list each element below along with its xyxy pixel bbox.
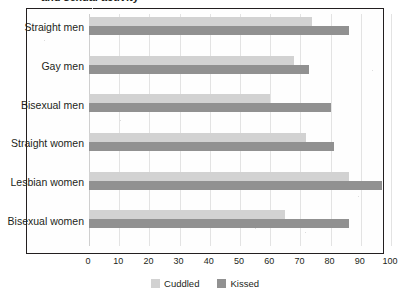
gridline-100 [391,14,392,246]
x-tick-20: 20 [143,256,153,266]
page-title: and sexual activity [41,0,139,3]
scan-artifact [358,196,359,197]
bar-kissed[interactable] [89,142,334,151]
bar-group [89,207,391,246]
x-tick-30: 30 [174,256,184,266]
bar-kissed[interactable] [89,26,349,35]
scan-artifact [92,8,93,9]
category-label-bisexual-women: Bisexual women [0,215,84,227]
bar-cuddled[interactable] [89,172,349,181]
x-axis-tick-labels: 0102030405060708090100 [88,256,390,270]
x-tick-100: 100 [382,256,397,266]
scan-artifact [305,232,306,233]
bar-kissed[interactable] [89,219,349,228]
x-tick-40: 40 [204,256,214,266]
legend-swatch-cuddled-icon [151,279,160,288]
bar-kissed[interactable] [89,181,382,190]
x-tick-70: 70 [294,256,304,266]
category-label-bisexual-men: Bisexual men [0,99,84,111]
scan-artifact [255,228,256,229]
bar-kissed[interactable] [89,103,331,112]
bar-group [89,14,391,53]
x-tick-80: 80 [325,256,335,266]
chart-page: and sexual activity Straight menGay menB… [0,0,410,299]
bar-rows [89,14,391,246]
legend-swatch-kissed-icon [217,279,226,288]
category-label-lesbian-women: Lesbian women [0,176,84,188]
x-tick-0: 0 [85,256,90,266]
x-tick-60: 60 [264,256,274,266]
bar-cuddled[interactable] [89,210,285,219]
x-tick-50: 50 [234,256,244,266]
scan-artifact [120,120,121,121]
bar-cuddled[interactable] [89,133,306,142]
bar-group [89,91,391,130]
bar-cuddled[interactable] [89,56,294,65]
category-label-straight-women: Straight women [0,137,84,149]
bar-group [89,169,391,208]
scan-artifact [300,118,301,119]
legend-item-kissed[interactable]: Kissed [217,278,259,289]
bar-kissed[interactable] [89,65,309,74]
x-tick-10: 10 [113,256,123,266]
category-label-straight-men: Straight men [0,21,84,33]
bar-group [89,53,391,92]
bar-group [89,130,391,169]
category-axis-labels: Straight menGay menBisexual menStraight … [0,14,84,246]
bar-cuddled[interactable] [89,94,270,103]
plot-area [89,14,391,246]
x-tick-90: 90 [355,256,365,266]
category-label-gay-men: Gay men [0,60,84,72]
legend-item-cuddled[interactable]: Cuddled [151,278,199,289]
scan-artifact [372,70,373,71]
chart-legend: Cuddled Kissed [0,278,410,289]
legend-label-cuddled: Cuddled [164,278,199,289]
legend-label-kissed: Kissed [230,278,259,289]
bar-cuddled[interactable] [89,17,312,26]
scan-artifact [44,40,45,41]
